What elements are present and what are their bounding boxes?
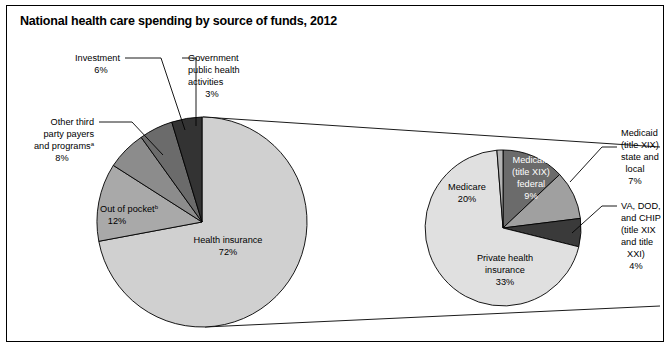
label-va-dod-chip-line2: and CHIP [621,213,661,223]
label-other-third-party-line2: party payers [43,129,94,139]
label-private-health-insurance-line2: insurance [485,265,525,275]
label-medicaid-state-local-value: 7% [628,176,641,186]
label-gov-public-health-value: 3% [205,89,218,99]
pie-left [97,117,307,327]
label-medicaid-state-local-line1: Medicaid [621,128,658,138]
label-out-of-pocket-line1: Out of pocketb [100,204,159,214]
callout-line-top [203,117,660,147]
label-va-dod-chip-line1: VA, DOD, [621,201,661,211]
label-other-third-party: Other third party payers and programsa 8… [34,117,95,163]
label-out-of-pocket-value: 12% [108,216,126,226]
label-medicaid-federal-value: 9% [524,191,537,201]
leader-medicaid-state-local-hook [570,147,602,182]
label-gov-public-health-line1: Government [188,53,239,63]
label-va-dod-chip-line5: XXI) [627,249,645,259]
footnote-marker-a: a [91,141,95,147]
label-private-health-insurance-line1: Private health [477,253,533,263]
label-other-third-party-line3: and programsa [34,141,95,151]
pie-chart-plot: Investment 6% Government public health a… [0,0,670,347]
label-private-health-insurance-value: 33% [496,277,514,287]
label-medicaid-federal-line3: federal [517,179,545,189]
label-va-dod-chip-line3: (title XIX [621,225,656,235]
label-va-dod-chip-value: 4% [629,261,642,271]
label-va-dod-chip-line4: and title [621,237,653,247]
label-investment-line1: Investment [75,53,120,63]
label-gov-public-health-line3: activities [188,77,224,87]
label-medicare-value: 20% [458,194,476,204]
figure-container: National health care spending by source … [0,0,670,347]
label-medicaid-state-local-line4: local [626,164,645,174]
label-health-insurance-line1: Health insurance [194,235,263,245]
label-medicare-line1: Medicare [448,182,486,192]
label-medicaid-federal-line1: Medicaid [513,155,550,165]
label-va-dod-chip: VA, DOD, and CHIP (title XIX and title X… [621,201,661,271]
label-investment-value: 6% [94,65,107,75]
leader-investment [125,58,185,130]
callout-line-bottom [205,306,660,327]
label-gov-public-health-line2: public health [188,65,240,75]
label-medicaid-state-local: Medicaid (title XIX) state and local 7% [621,128,659,186]
label-other-third-party-line1: Other third [51,117,94,127]
label-medicaid-state-local-line3: state and [621,152,659,162]
label-health-insurance-value: 72% [219,247,237,257]
label-other-third-party-value: 8% [55,153,68,163]
label-medicaid-federal-line2: (title XIX) [512,167,550,177]
label-medicaid-state-local-line2: (title XIX) [621,140,659,150]
label-investment: Investment 6% [75,53,120,75]
